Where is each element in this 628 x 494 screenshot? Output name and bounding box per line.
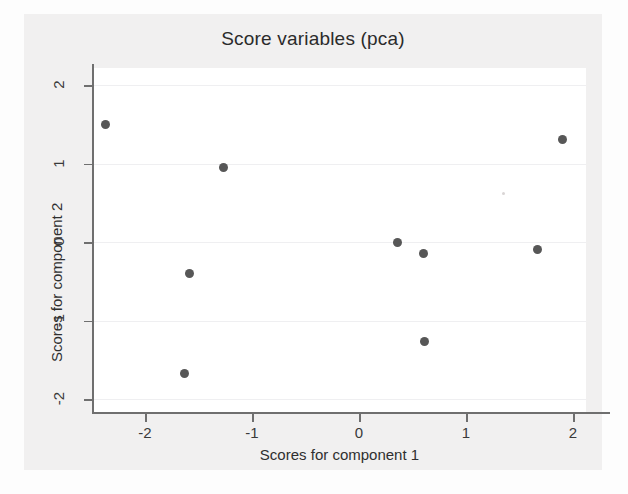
x-axis-tick-label: -1 — [232, 424, 272, 441]
y-axis-tick — [84, 242, 93, 244]
y-axis-title: Scores for component 2 — [48, 203, 65, 362]
scan-artifact — [502, 192, 505, 195]
x-axis-title: Scores for component 1 — [93, 446, 586, 463]
y-axis-tick — [84, 85, 93, 87]
figure-background: Score variables (pca) -2-1012-2-1012 Sco… — [24, 14, 602, 470]
gridline-horizontal — [93, 85, 586, 86]
gridline-horizontal — [93, 399, 586, 400]
scatter-point — [185, 269, 194, 278]
y-axis-tick — [84, 399, 93, 401]
plot-area — [93, 68, 586, 412]
x-axis-tick — [359, 413, 361, 422]
x-axis-tick-label: 0 — [339, 424, 379, 441]
x-axis-tick-label: 1 — [446, 424, 486, 441]
scatter-point — [419, 249, 428, 258]
x-axis-line — [92, 412, 610, 414]
x-axis-tick — [145, 413, 147, 422]
gridline-horizontal — [93, 321, 586, 322]
scatter-point — [180, 369, 189, 378]
y-axis-tick — [84, 321, 93, 323]
x-axis-tick — [466, 413, 468, 422]
scatter-point — [558, 135, 567, 144]
y-axis-tick-label: -2 — [50, 379, 67, 419]
scatter-point — [393, 238, 402, 247]
y-axis-tick-label: 1 — [50, 143, 67, 183]
x-axis-tick — [573, 413, 575, 422]
gridline-horizontal — [93, 164, 586, 165]
scatter-point — [219, 163, 228, 172]
y-axis-line — [92, 64, 94, 414]
x-axis-tick-label: 2 — [553, 424, 593, 441]
scatter-point — [420, 337, 429, 346]
x-axis-tick-label: -2 — [125, 424, 165, 441]
scatter-point — [533, 245, 542, 254]
chart-title: Score variables (pca) — [24, 28, 602, 50]
y-axis-tick-label: 2 — [50, 65, 67, 105]
chart-figure: Score variables (pca) -2-1012-2-1012 Sco… — [0, 0, 628, 494]
x-axis-tick — [252, 413, 254, 422]
scatter-point — [101, 120, 110, 129]
y-axis-tick — [84, 164, 93, 166]
gridline-horizontal — [93, 242, 586, 243]
